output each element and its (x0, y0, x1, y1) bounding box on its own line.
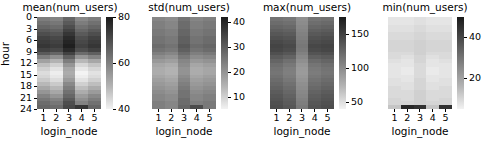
x-axis-tick-label: 1 (37, 112, 50, 123)
colorbar-gradient (457, 17, 464, 109)
y-axis-tick-mark (34, 29, 37, 30)
x-axis-tick-label: 2 (50, 112, 63, 123)
heatmap-panel: min(num_users)12345login_node4020 (355, 0, 477, 143)
heatmap-panel: max(num_users)12345login_node15010050 (237, 0, 359, 143)
y-axis-tick-mark (34, 86, 37, 87)
y-axis-tick-label: 18 (0, 81, 32, 91)
y-axis-tick-label: 9 (0, 47, 32, 57)
heatmap-grid (270, 17, 334, 109)
x-axis-tick-label: 1 (270, 112, 283, 123)
x-axis-label: login_node (136, 125, 232, 137)
colorbar (106, 17, 113, 109)
x-axis-tick-label: 2 (165, 112, 178, 123)
panel-title: max(num_users) (255, 1, 359, 13)
colorbar (339, 17, 346, 109)
y-axis-tick-label: 0 (0, 12, 32, 22)
y-axis-tick-label: 3 (0, 24, 32, 34)
colorbar-tick-label: 20 (464, 73, 481, 83)
x-axis-label: login_node (21, 125, 117, 137)
x-axis-tick-label: 4 (308, 112, 321, 123)
x-axis-tick-label: 4 (426, 112, 439, 123)
y-axis-tick-mark (34, 52, 37, 53)
x-axis-label: login_node (372, 125, 468, 137)
heatmap-grid (152, 17, 216, 109)
x-axis-tick-label: 5 (88, 112, 101, 123)
panel-title: std(num_users) (137, 1, 241, 13)
heatmap-panel: std(num_users)12345login_node40302010 (119, 0, 241, 143)
x-axis-label: login_node (254, 125, 350, 137)
x-axis-ticks: 12345 (270, 112, 334, 123)
colorbar-tick-text: 20 (469, 72, 481, 83)
x-axis-tick-label: 3 (178, 112, 191, 123)
x-axis-tick-label: 1 (388, 112, 401, 123)
panel-title: min(num_users) (373, 1, 477, 13)
x-axis-tick-label: 4 (190, 112, 203, 123)
y-axis-tick-mark (34, 40, 37, 41)
x-axis-ticks: 12345 (37, 112, 101, 123)
colorbar-gradient (339, 17, 346, 109)
x-axis-tick-label: 3 (63, 112, 76, 123)
x-axis-tick-label: 5 (439, 112, 452, 123)
heatmap-panel: mean(num_users)hour0369121518212412345lo… (0, 0, 122, 143)
x-axis-tick-label: 3 (414, 112, 427, 123)
x-axis-tick-label: 1 (152, 112, 165, 123)
x-axis-tick-label: 5 (203, 112, 216, 123)
y-axis-tick-label: 24 (0, 104, 32, 114)
y-axis-tick-label: 6 (0, 35, 32, 45)
figure-canvas: mean(num_users)hour0369121518212412345lo… (0, 0, 487, 143)
y-axis-tick-mark (34, 63, 37, 64)
colorbar (457, 17, 464, 109)
y-axis-tick-label: 21 (0, 93, 32, 103)
panel-title: mean(num_users) (18, 1, 122, 13)
x-axis-tick-label: 2 (283, 112, 296, 123)
x-axis-tick-label: 3 (296, 112, 309, 123)
y-axis-tick-mark (34, 98, 37, 99)
heatmap-grid (37, 17, 101, 109)
colorbar-gradient (106, 17, 113, 109)
x-axis-tick-label: 5 (321, 112, 334, 123)
heatmap-grid (388, 17, 452, 109)
colorbar-tick-label: 40 (464, 32, 481, 42)
x-axis-tick-label: 2 (401, 112, 414, 123)
colorbar-gradient (221, 17, 228, 109)
x-axis-ticks: 12345 (388, 112, 452, 123)
y-axis-tick-mark (34, 17, 37, 18)
colorbar-tick-text: 40 (469, 31, 481, 42)
y-axis-tick-label: 12 (0, 58, 32, 68)
x-axis-ticks: 12345 (152, 112, 216, 123)
y-axis-tick-mark (34, 75, 37, 76)
colorbar (221, 17, 228, 109)
x-axis-tick-label: 4 (75, 112, 88, 123)
y-axis-tick-label: 15 (0, 70, 32, 80)
